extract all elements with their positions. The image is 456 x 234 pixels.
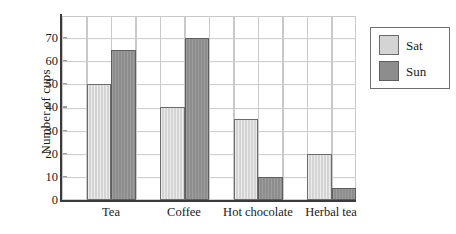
x-label-tea: Tea [102,205,120,220]
y-tick-label-20: 20 [20,147,58,160]
y-tick-label-10: 10 [20,171,58,184]
y-tick-label-30: 30 [20,124,58,137]
bar-hot-chocolate-sat [234,119,259,200]
x-label-hot-chocolate: Hot chocolate [223,205,293,220]
bar-coffee-sat [160,107,185,200]
legend-label-sat: Sat [406,39,423,52]
plot-area [62,16,356,200]
bars-layer [62,16,356,200]
x-label-coffee: Coffee [167,205,201,220]
y-tick-label-60: 60 [20,55,58,68]
y-axis-line [60,14,62,202]
bar-herbal-tea-sun [332,188,357,200]
y-tick-label-70: 70 [20,32,58,45]
bar-herbal-tea-sat [307,154,332,200]
legend: Sat Sun [370,27,450,89]
bar-tea-sun [111,50,136,200]
bar-hot-chocolate-sun [258,177,283,200]
x-axis-line [60,200,356,202]
legend-swatch-sat [379,35,399,55]
legend-swatch-sun [379,61,399,81]
legend-entry-sat: Sat [379,35,423,55]
x-label-herbal-tea: Herbal tea [305,205,357,220]
bar-tea-sat [87,84,112,200]
legend-label-sun: Sun [406,65,426,78]
y-tick-label-40: 40 [20,101,58,114]
y-tick-label-50: 50 [20,78,58,91]
legend-entry-sun: Sun [379,61,426,81]
bar-coffee-sun [185,38,210,200]
bar-chart-figure: Number of cups 0 10 20 30 40 50 60 70 [0,0,456,234]
x-axis-labels: Tea Coffee Hot chocolate Herbal tea [0,205,456,229]
